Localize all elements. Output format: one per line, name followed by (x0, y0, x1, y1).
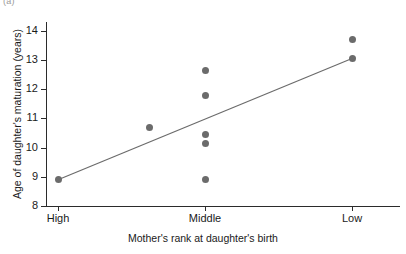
data-point (349, 55, 356, 62)
data-point (202, 176, 209, 183)
data-point (55, 176, 62, 183)
y-tick-label-14: 14 (26, 24, 38, 37)
data-point (202, 67, 209, 74)
data-point (202, 92, 209, 99)
y-tick-label-11: 11 (27, 111, 38, 124)
y-axis-title: Age of daughter's maturation (years) (11, 19, 23, 209)
trend-line (46, 22, 400, 207)
data-point (146, 124, 153, 131)
y-tick-label-8: 8 (32, 199, 38, 212)
data-point (202, 140, 209, 147)
x-tick-label-high: High (47, 212, 70, 225)
y-tick-label-9: 9 (32, 170, 38, 183)
x-axis-title: Mother's rank at daughter's birth (0, 232, 406, 244)
y-tick-label-13: 13 (26, 53, 38, 66)
x-tick-label-middle: Middle (189, 212, 221, 225)
panel-label: (a) (3, 0, 15, 6)
y-tick-label-10: 10 (26, 141, 38, 154)
x-tick-label-low: Low (342, 212, 362, 225)
data-point (202, 131, 209, 138)
y-tick-label-12: 12 (26, 82, 38, 95)
data-point (349, 36, 356, 43)
plot-area: 141312111098 HighMiddleLow (46, 22, 400, 207)
scatter-chart: (a) Age of daughter's maturation (years)… (0, 0, 406, 254)
